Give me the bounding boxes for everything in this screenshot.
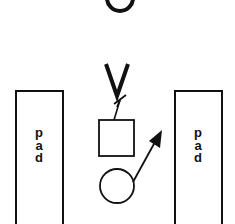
diagram-svg xyxy=(0,0,235,224)
left-pad-char-d: d xyxy=(29,152,49,165)
circle-node xyxy=(100,169,134,203)
right-pad-char-d: d xyxy=(188,152,208,165)
right-pad-label: p a d xyxy=(188,127,208,165)
arrow-head-icon xyxy=(149,130,162,148)
diagonal-arrow-shaft xyxy=(133,142,155,182)
left-pad-label: p a d xyxy=(29,127,49,165)
diagram-canvas: p a d p a d xyxy=(0,0,235,224)
top-o-symbol xyxy=(107,0,133,11)
square-block xyxy=(99,120,134,156)
v-symbol xyxy=(106,64,128,96)
